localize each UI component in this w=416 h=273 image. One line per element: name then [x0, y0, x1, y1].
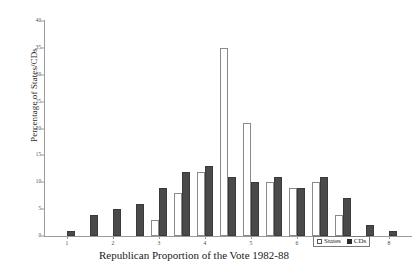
bar-states	[174, 193, 182, 236]
legend-item-states: States	[317, 238, 341, 245]
bar-cds	[136, 204, 144, 236]
bar-cds	[205, 166, 213, 236]
bar-cds	[113, 209, 121, 236]
bar-states	[312, 182, 320, 236]
x-tick-mark	[251, 236, 252, 239]
plot-area: 0510152025303540 12345678	[44, 21, 412, 236]
x-axis-title: Republican Proportion of the Vote 1982-8…	[44, 249, 344, 261]
bar-cds	[389, 231, 397, 236]
bar-cds	[67, 231, 75, 236]
bar-cds	[182, 172, 190, 237]
bar-cds	[274, 177, 282, 236]
bar-states	[243, 123, 251, 236]
bar-states	[335, 215, 343, 237]
bar-cds	[251, 182, 259, 236]
y-tick-label: 20	[36, 126, 41, 131]
bar-states	[220, 48, 228, 236]
chart-figure: Percentage of States/CDs 051015202530354…	[0, 0, 416, 273]
x-tick-mark	[205, 236, 206, 239]
bar-cds	[343, 198, 351, 236]
y-tick-label: 35	[36, 45, 41, 50]
x-tick-mark	[67, 236, 68, 239]
x-tick-label: 4	[204, 241, 207, 247]
bar-cds	[366, 225, 374, 236]
bar-cds	[320, 177, 328, 236]
x-tick-mark	[159, 236, 160, 239]
x-tick-label: 6	[296, 241, 299, 247]
x-tick-label: 3	[158, 241, 161, 247]
legend-swatch-cds-icon	[347, 239, 352, 244]
x-tick-label: 5	[250, 241, 253, 247]
y-tick-label: 5	[38, 207, 41, 212]
y-tick-label: 25	[36, 99, 41, 104]
x-tick-label: 8	[388, 241, 391, 247]
legend-label-cds: CDs	[354, 238, 366, 245]
bar-cds	[159, 188, 167, 236]
bar-states	[151, 220, 159, 236]
legend-item-cds: CDs	[347, 238, 366, 245]
bar-cds	[297, 188, 305, 236]
bar-states	[266, 182, 274, 236]
x-tick-mark	[113, 236, 114, 239]
bar-states	[289, 188, 297, 236]
y-tick-label: 0	[38, 233, 41, 238]
x-tick-mark	[297, 236, 298, 239]
y-tick-label: 30	[36, 72, 41, 77]
bar-cds	[90, 215, 98, 237]
legend-label-states: States	[324, 238, 341, 245]
y-tick-label: 15	[36, 153, 41, 158]
x-tick-mark	[389, 236, 390, 239]
bars-layer	[44, 21, 412, 236]
bar-states	[197, 172, 205, 237]
chart-legend: States CDs	[313, 236, 370, 247]
legend-swatch-states-icon	[317, 239, 322, 244]
y-tick-label: 10	[36, 180, 41, 185]
x-tick-label: 1	[66, 241, 69, 247]
bar-cds	[228, 177, 236, 236]
y-tick-label: 40	[36, 18, 41, 23]
x-tick-label: 2	[112, 241, 115, 247]
